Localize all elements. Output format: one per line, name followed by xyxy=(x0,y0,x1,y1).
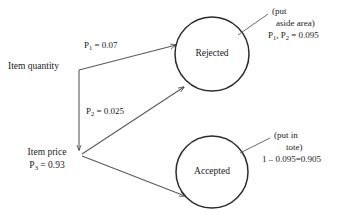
annotation-rejected-line1: (put xyxy=(272,6,319,18)
annot-p1-subscript: 1 xyxy=(273,34,276,41)
annotation-rejected-line2: aside area) xyxy=(276,18,319,30)
p3-value: = 0.93 xyxy=(38,160,65,170)
item-quantity-text: Item quantity xyxy=(8,61,59,71)
node-label-rejected: Rejected xyxy=(182,48,242,60)
edge-label-p2: P2 = 0.025 xyxy=(86,106,124,116)
p1-value: = 0.07 xyxy=(92,40,117,50)
annotation-accepted: (put in tote) 1 – 0.095=0.905 xyxy=(272,130,321,166)
annotation-accepted-line2: tote) xyxy=(286,142,321,154)
annot-p-value: = 0.095 xyxy=(289,30,319,40)
item-price-probability: P3 = 0.93 xyxy=(29,160,64,170)
source-label-item-price: Item price P3 = 0.93 xyxy=(16,146,78,172)
p2-value: = 0.025 xyxy=(94,106,124,116)
edge-price-to-accepted xyxy=(82,156,185,196)
annotation-rejected: (put aside area) P1, P2 = 0.095 xyxy=(272,6,319,42)
source-label-item-quantity: Item quantity xyxy=(8,60,59,73)
p1-subscript: 1 xyxy=(89,44,92,51)
p3-subscript: 3 xyxy=(35,164,38,171)
item-price-text: Item price xyxy=(28,147,67,157)
leader-line-accepted xyxy=(240,138,270,153)
edge-price-to-rejected xyxy=(82,87,184,154)
annot-p-separator: , P xyxy=(276,30,286,40)
annotation-accepted-line3: 1 – 0.095=0.905 xyxy=(262,154,321,166)
annotation-rejected-line3: P1, P2 = 0.095 xyxy=(268,30,319,42)
annot-p2-subscript: 2 xyxy=(286,34,289,41)
p3-symbol: P xyxy=(29,160,34,170)
edge-label-p1: P1 = 0.07 xyxy=(84,40,118,50)
p2-subscript: 2 xyxy=(91,110,94,117)
leader-line-rejected xyxy=(238,14,268,35)
node-label-accepted: Accepted xyxy=(182,166,242,178)
annotation-accepted-line1: (put in xyxy=(274,130,321,142)
diagram-canvas: Rejected Accepted Item quantity Item pri… xyxy=(0,0,340,223)
